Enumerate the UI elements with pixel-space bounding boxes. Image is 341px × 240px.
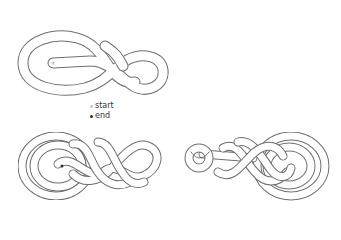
knot-step-1-drawing [15,28,170,98]
end-marker [61,165,64,168]
legend-item-start: start [90,101,114,111]
legend: start end [90,101,114,121]
knot-step-2-drawing [18,132,168,200]
knot-step-3 [183,132,333,202]
legend-item-end: end [90,111,114,121]
end-dot-icon [90,115,93,118]
start-marker [52,62,55,65]
start-dot-icon [90,105,93,108]
legend-label-start: start [95,101,114,111]
knot-step-2 [18,132,168,200]
knot-step-3-drawing [183,132,333,202]
knot-step-1 [15,28,170,98]
legend-label-end: end [95,111,110,121]
